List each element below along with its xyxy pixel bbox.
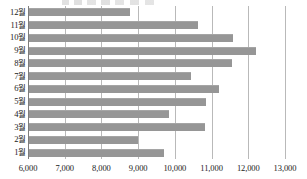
y-tick-label-10월: 10월 [0,33,26,42]
bar-11월 [29,21,198,29]
bar-9월 [29,47,256,55]
bar-2월 [29,136,138,144]
x-tick-label-13000: 13,000 [274,163,297,173]
bar-chart: 12월11월10월9월8월7월6월5월4월3월2월1월 6,0007,0008,… [0,0,307,179]
x-tick-label-9000: 9,000 [129,163,148,173]
x-tick-label-11000: 11,000 [200,163,222,173]
bar-fill [29,59,232,67]
bar-5월 [29,98,206,106]
y-tick-label-2월: 2월 [0,135,26,144]
x-tick-label-12000: 12,000 [237,163,260,173]
bar-fill [29,149,164,157]
bar-fill [29,136,138,144]
bar-7월 [29,72,191,80]
y-tick-label-7월: 7월 [0,72,26,81]
y-tick-label-4월: 4월 [0,110,26,119]
x-tick-label-7000: 7,000 [55,163,74,173]
x-tick-label-10000: 10,000 [163,163,186,173]
y-tick-label-6월: 6월 [0,84,26,93]
bar-fill [29,21,198,29]
bar-fill [29,98,206,106]
y-axis-category-labels: 12월11월10월9월8월7월6월5월4월3월2월1월 [0,6,26,159]
bar-3월 [29,123,205,131]
bar-12월 [29,8,130,16]
bar-1월 [29,149,164,157]
gridline-13000 [285,6,286,159]
gridline-12000 [248,6,249,159]
y-tick-label-5월: 5월 [0,97,26,106]
y-tick-label-1월: 1월 [0,148,26,157]
y-tick-label-12월: 12월 [0,8,26,17]
gridline-11000 [212,6,213,159]
bar-fill [29,110,169,118]
x-tick-label-8000: 8,000 [92,163,111,173]
bar-fill [29,47,256,55]
y-tick-label-3월: 3월 [0,123,26,132]
bar-fill [29,123,205,131]
bar-4월 [29,110,169,118]
y-tick-label-8월: 8월 [0,59,26,68]
bar-fill [29,72,191,80]
y-tick-label-11월: 11월 [0,21,26,30]
x-tick-label-6000: 6,000 [19,163,38,173]
y-tick-label-9월: 9월 [0,46,26,55]
bar-10월 [29,34,233,42]
plot-area [28,6,285,159]
bar-fill [29,34,233,42]
bar-8월 [29,59,232,67]
clipped-title-artifact [62,0,182,5]
bar-fill [29,8,130,16]
bar-6월 [29,85,219,93]
bar-fill [29,85,219,93]
